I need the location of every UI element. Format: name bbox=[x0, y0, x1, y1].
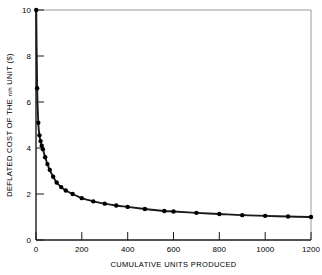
data-point bbox=[91, 199, 95, 203]
data-point bbox=[171, 209, 175, 213]
data-point bbox=[54, 180, 58, 184]
y-tick-label-10: 10 bbox=[22, 6, 31, 15]
y-axis-tick-labels: 0 2 4 6 8 10 bbox=[22, 6, 31, 245]
chart-figure: 0 2 4 6 8 10 0 200 400 600 800 1000 1200 bbox=[0, 0, 322, 275]
y-axis-title-tail: UNIT ($) bbox=[5, 53, 14, 87]
data-series-group bbox=[34, 8, 313, 219]
data-point bbox=[70, 192, 74, 196]
data-point bbox=[143, 207, 147, 211]
data-point bbox=[43, 155, 47, 159]
data-point bbox=[45, 162, 49, 166]
x-tick-label-0: 0 bbox=[34, 245, 39, 254]
data-point bbox=[263, 214, 267, 218]
y-axis-title-lead: DEFLATED COST OF THE bbox=[5, 96, 14, 196]
y-tick-label-6: 6 bbox=[27, 98, 32, 107]
data-point bbox=[59, 185, 63, 189]
x-tick-label-1200: 1200 bbox=[302, 245, 320, 254]
data-point bbox=[114, 203, 118, 207]
data-point bbox=[38, 139, 42, 143]
plot-frame bbox=[36, 10, 311, 240]
x-tick-label-800: 800 bbox=[213, 245, 227, 254]
y-axis-title: DEFLATED COST OF THE nth UNIT ($) bbox=[5, 53, 14, 197]
x-tick-label-600: 600 bbox=[167, 245, 181, 254]
data-point bbox=[125, 205, 129, 209]
x-axis-ticks bbox=[36, 232, 311, 240]
data-point bbox=[34, 8, 38, 12]
y-axis-title-nth: nth bbox=[7, 87, 13, 96]
data-point bbox=[35, 86, 39, 90]
data-point bbox=[51, 175, 55, 179]
data-point bbox=[240, 213, 244, 217]
data-point bbox=[48, 168, 52, 172]
y-tick-label-8: 8 bbox=[27, 52, 32, 61]
data-point bbox=[103, 201, 107, 205]
series-line-deflated-unit-cost bbox=[36, 10, 311, 217]
x-axis-tick-labels: 0 200 400 600 800 1000 1200 bbox=[34, 245, 321, 254]
y-tick-label-2: 2 bbox=[27, 190, 32, 199]
x-tick-label-1000: 1000 bbox=[256, 245, 274, 254]
data-point bbox=[41, 147, 45, 151]
data-point bbox=[217, 212, 221, 216]
series-markers-deflated-unit-cost bbox=[34, 8, 313, 219]
data-point bbox=[309, 215, 313, 219]
data-point bbox=[80, 196, 84, 200]
data-point bbox=[162, 209, 166, 213]
data-point bbox=[194, 211, 198, 215]
data-point bbox=[36, 121, 40, 125]
data-point bbox=[64, 188, 68, 192]
x-axis-title: CUMULATIVE UNITS PRODUCED bbox=[110, 260, 236, 269]
data-point bbox=[286, 214, 290, 218]
learning-curve-chart: 0 2 4 6 8 10 0 200 400 600 800 1000 1200 bbox=[0, 0, 322, 275]
x-tick-label-200: 200 bbox=[75, 245, 89, 254]
x-tick-label-400: 400 bbox=[121, 245, 135, 254]
data-point bbox=[37, 133, 41, 137]
y-tick-label-0: 0 bbox=[27, 236, 32, 245]
y-tick-label-4: 4 bbox=[27, 144, 32, 153]
